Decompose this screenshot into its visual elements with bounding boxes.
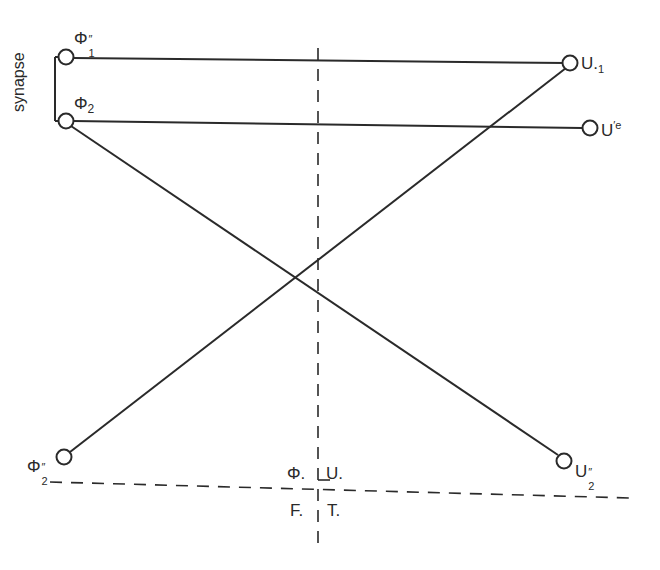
label-phi2-base: Φ	[74, 94, 88, 113]
node-circle-phi2b	[57, 450, 72, 465]
label-u1-base: U.	[581, 54, 598, 73]
label-ue-sup: ′e	[613, 119, 621, 131]
label-u2-sup: ″	[588, 467, 592, 478]
node-circle-phi1	[59, 50, 74, 65]
node-circle-u2	[557, 454, 572, 469]
label-phi2b-sup: ″	[42, 462, 46, 473]
label-phi2b-sub: 2	[42, 476, 48, 487]
label-u2-base: U	[575, 462, 587, 481]
horizontal-dashed-axis	[50, 482, 630, 498]
label-u2: U″2	[575, 463, 597, 480]
label-phi1-base: Φ	[74, 29, 88, 48]
node-circle-phi2	[59, 114, 74, 129]
label-phi1-sub: 1	[89, 48, 95, 59]
label-u2-sub: 2	[588, 481, 594, 492]
quadrant-top-left-label: Φ.	[287, 465, 305, 482]
label-ue-base: U	[601, 121, 613, 140]
label-phi2-sub: 2	[88, 102, 95, 116]
quadrant-top-right-label: U.	[326, 465, 343, 482]
diagram-canvas	[0, 0, 660, 570]
node-circle-ue	[583, 121, 598, 136]
line-phi2-u2	[71, 126, 558, 455]
line-phi1-u1	[73, 58, 566, 63]
label-ue: U′e	[601, 120, 621, 139]
label-phi2b: Φ″2	[27, 458, 51, 475]
label-phi1-sup: ″	[89, 34, 93, 45]
label-phi2: Φ2	[74, 95, 94, 115]
quadrant-bottom-right-label: T.	[327, 502, 340, 519]
node-circle-u1	[563, 56, 578, 71]
quadrant-bottom-left-label: F.	[290, 502, 303, 519]
label-phi2b-base: Φ	[27, 457, 41, 476]
label-phi1: Φ″1	[74, 30, 98, 47]
line-phi2-ue	[73, 121, 582, 128]
label-u1: U.1	[581, 55, 604, 75]
synapse-label: synapse	[10, 52, 28, 112]
label-u1-sub: 1	[598, 63, 604, 75]
